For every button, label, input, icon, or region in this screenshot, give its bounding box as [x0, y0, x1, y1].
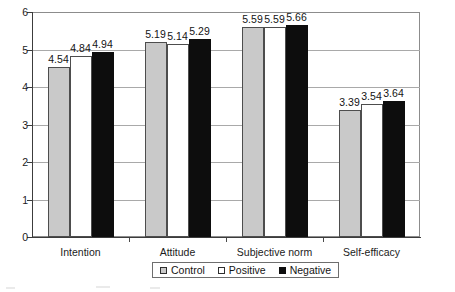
x-tick-mark: [129, 238, 130, 242]
bar-value-label: 4.94: [86, 39, 120, 50]
bar-control-self-efficacy: [339, 110, 361, 237]
scan-artifact: [150, 287, 160, 289]
bar-positive-attitude: [167, 44, 189, 237]
legend-entry-control: Control: [160, 265, 205, 276]
bar-value-label: 3.64: [377, 88, 411, 99]
bar-negative-attitude: [189, 39, 211, 237]
legend-label: Positive: [229, 265, 266, 276]
legend-label: Control: [171, 265, 205, 276]
x-tick-mark: [323, 238, 324, 242]
bar-value-label: 5.29: [183, 26, 217, 37]
bar-positive-self-efficacy: [361, 104, 383, 237]
bar-control-subjective-norm: [242, 27, 264, 237]
bar-negative-subjective-norm: [286, 25, 308, 237]
bar-negative-intention: [92, 52, 114, 237]
bar-positive-subjective-norm: [264, 27, 286, 237]
bar-negative-self-efficacy: [383, 101, 405, 238]
legend-label: Negative: [290, 265, 331, 276]
legend-swatch-icon: [218, 267, 225, 274]
bar-control-intention: [48, 67, 70, 237]
bar-control-attitude: [145, 42, 167, 237]
legend-entry-positive: Positive: [218, 265, 266, 276]
bar-positive-intention: [70, 56, 92, 238]
legend-swatch-icon: [160, 267, 167, 274]
scan-artifact: [6, 287, 15, 289]
chart-legend: ControlPositiveNegative: [152, 262, 339, 278]
x-category-label: Self-efficacy: [312, 246, 432, 258]
legend-swatch-icon: [279, 267, 286, 274]
scan-artifact: [96, 286, 110, 288]
x-tick-mark: [226, 238, 227, 242]
bar-chart: 6543210 4.544.844.945.195.145.295.595.59…: [0, 0, 455, 292]
legend-entry-negative: Negative: [279, 265, 331, 276]
bar-value-label: 5.66: [280, 12, 314, 23]
